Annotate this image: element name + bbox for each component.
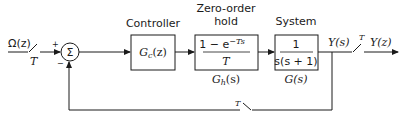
controller-transfer-function: Gc(z)	[139, 46, 167, 60]
output-signal: Y(s) T Y(z)	[318, 33, 398, 52]
zoh-denominator: T	[222, 55, 231, 68]
output-continuous-label: Y(s)	[328, 36, 350, 49]
system-caption: G(s)	[284, 73, 307, 86]
zoh-title-line1: Zero-order	[196, 2, 256, 15]
system-numerator: 1	[293, 38, 300, 51]
zoh-caption: Gh(s)	[212, 73, 240, 87]
output-sampler-label: T	[359, 33, 365, 42]
controller-title: Controller	[126, 17, 181, 30]
zoh-title-line2: hold	[214, 15, 238, 28]
input-sampler-label: T	[30, 55, 39, 68]
feedback-sampler-switch	[243, 103, 251, 110]
input-label: Ω(z)	[8, 37, 31, 50]
system-denominator: s(s + 1)	[274, 55, 317, 68]
summing-junction: Σ + −	[52, 40, 79, 68]
output-sampler-switch	[353, 44, 361, 52]
plus-sign: +	[52, 40, 59, 49]
minus-sign: −	[57, 59, 64, 68]
block-diagram: Ω(z) T Σ + − Controller Gc(z) Zero-order…	[0, 0, 406, 120]
controller-block: Controller Gc(z)	[126, 17, 181, 70]
system-title: System	[275, 15, 316, 28]
feedback-sampler-label: T	[235, 99, 241, 108]
zoh-numerator: 1 − e−Ts	[199, 37, 245, 51]
sigma-symbol: Σ	[67, 46, 74, 59]
system-block: System 1 s(s + 1) G(s)	[274, 15, 318, 86]
output-discrete-label: Y(z)	[370, 36, 392, 49]
zoh-block: Zero-order hold 1 − e−Ts T Gh(s)	[195, 2, 258, 87]
